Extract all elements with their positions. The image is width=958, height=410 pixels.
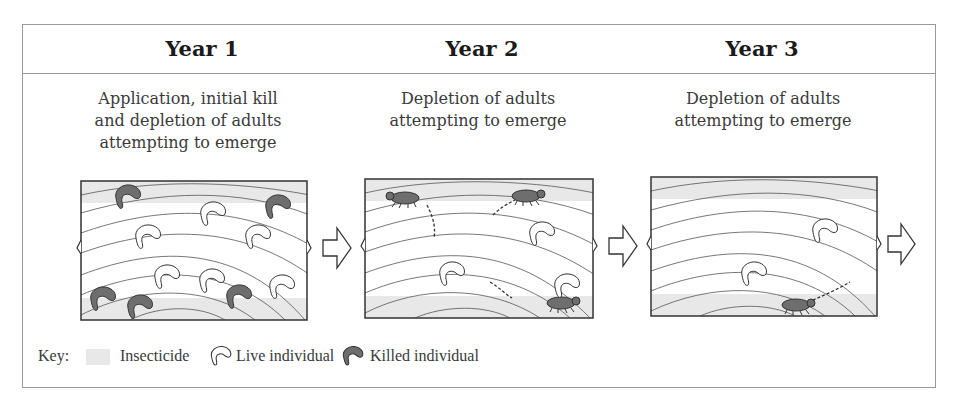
year-1-panel [77, 181, 311, 320]
arrow-icon [323, 228, 351, 268]
arrow-icon [888, 224, 915, 264]
year-2-panel [361, 179, 597, 318]
year-3-panel [647, 177, 881, 316]
legend-killed-label: Killed individual [370, 347, 479, 365]
killed-larva-icon [342, 345, 364, 367]
insecticide-swatch [86, 349, 110, 365]
legend-live-label: Live individual [236, 347, 334, 365]
legend: Key: Insecticide Live individual Killed … [0, 345, 958, 375]
arrow-icon [609, 226, 637, 266]
live-larva-icon [210, 345, 232, 367]
legend-insecticide-label: Insecticide [120, 347, 189, 365]
legend-label: Key: [38, 347, 69, 365]
